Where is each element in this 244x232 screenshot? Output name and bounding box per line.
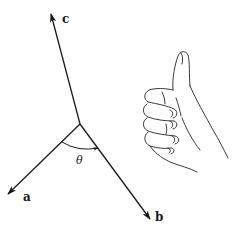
vector-c-label: c (62, 12, 69, 26)
angle-theta: θ (62, 142, 98, 167)
vector-c: c (51, 12, 80, 124)
vector-b: b (80, 124, 163, 224)
angle-theta-label: θ (76, 154, 83, 167)
vector-a: a (8, 124, 80, 204)
right-hand-icon (143, 52, 228, 172)
vector-b-label: b (155, 210, 163, 224)
right-hand-rule-diagram: c a b θ (0, 0, 244, 232)
vector-a-label: a (23, 190, 31, 204)
